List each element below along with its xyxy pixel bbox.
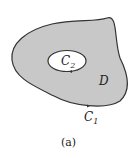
outer-curve-label: C1 [84, 110, 98, 126]
region-diagram: C2 D C1 (a) [0, 0, 136, 157]
caption: (a) [61, 136, 76, 149]
region-label: D [98, 74, 109, 88]
